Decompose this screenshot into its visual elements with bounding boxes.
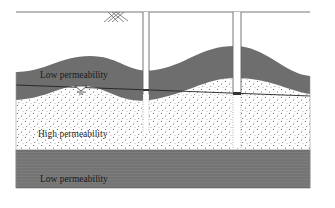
lower-layer-label: Low permeability	[40, 174, 108, 184]
well-1	[143, 12, 149, 132]
well-2	[233, 12, 241, 148]
ground-hatch-icon	[104, 12, 128, 22]
upper-layer-label: Low permeability	[40, 70, 108, 80]
aquifer-label: High permeability	[38, 129, 108, 139]
cross-section-diagram: Low permeability High permeability Low p…	[0, 0, 335, 208]
